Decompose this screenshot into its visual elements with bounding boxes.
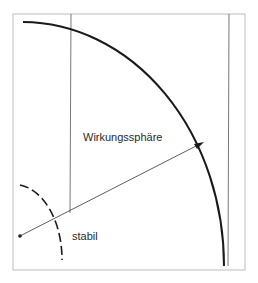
radius-arrow-line <box>20 145 198 236</box>
vertical-line-right <box>228 14 229 266</box>
label-wirkungssphaere: Wirkungssphäre <box>83 131 162 143</box>
vertical-line-left <box>70 14 71 213</box>
label-stabil: stabil <box>72 230 98 242</box>
stable-region-arc <box>20 185 62 260</box>
sphere-of-influence-arc <box>23 22 224 266</box>
